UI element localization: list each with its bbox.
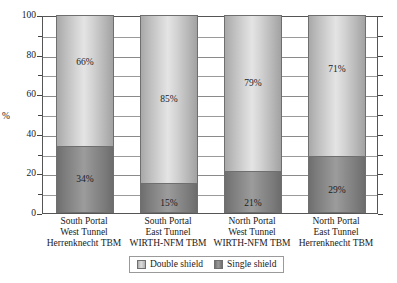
bar-group[interactable]: 85%15% [140, 15, 198, 213]
bar-segment-single-shield[interactable]: 21% [224, 171, 282, 213]
bar-value-label: 79% [244, 79, 261, 89]
bar-value-label: 71% [328, 65, 345, 75]
y-tick-mark-right [378, 75, 383, 76]
bar-segment-double-shield[interactable]: 66% [56, 15, 114, 146]
legend-item-double-shield[interactable]: Double shield [137, 260, 203, 270]
y-tick-mark-right [378, 16, 383, 17]
y-tick-label: 60 [8, 90, 36, 100]
y-tick-mark-right [378, 194, 383, 195]
bar-segment-single-shield[interactable]: 34% [56, 146, 114, 213]
bar-group[interactable]: 66%34% [56, 15, 114, 213]
legend-label-double-shield: Double shield [150, 260, 203, 270]
bar-value-label: 34% [76, 175, 93, 185]
bar-segment-double-shield[interactable]: 71% [308, 15, 366, 156]
chart-legend: Double shield Single shield [129, 256, 284, 273]
bar-value-label: 66% [76, 58, 93, 68]
x-axis-label-line: East Tunnel [276, 227, 396, 238]
bar-group[interactable]: 71%29% [308, 15, 366, 213]
bar-segment-double-shield[interactable]: 79% [224, 15, 282, 171]
bar-segment-double-shield[interactable]: 85% [140, 15, 198, 183]
bar-group[interactable]: 79%21% [224, 15, 282, 213]
bar-value-label: 15% [160, 199, 177, 209]
y-tick-mark-right [378, 56, 383, 57]
y-tick-label: 20 [8, 169, 36, 179]
stacked-bar-chart: % 020406080100 66%34%85%15%79%21%71%29% … [0, 0, 397, 283]
bar-value-label: 29% [328, 186, 345, 196]
x-axis-label-line: North Portal [276, 216, 396, 227]
x-axis-label-line: Herrenknecht TBM [276, 238, 396, 249]
y-tick-mark-right [378, 155, 383, 156]
bar-segment-single-shield[interactable]: 29% [308, 156, 366, 213]
legend-swatch-double-shield [137, 260, 146, 269]
legend-swatch-single-shield [214, 260, 223, 269]
y-tick-mark-right [378, 135, 383, 136]
legend-label-single-shield: Single shield [227, 260, 276, 270]
y-tick-mark-right [378, 95, 383, 96]
legend-item-single-shield[interactable]: Single shield [214, 260, 276, 270]
y-tick-label: 100 [8, 11, 36, 21]
plot-area: 66%34%85%15%79%21%71%29% [42, 16, 378, 214]
y-tick-label: 40 [8, 130, 36, 140]
bar-value-label: 85% [160, 95, 177, 105]
y-tick-mark-right [378, 214, 383, 215]
y-tick-mark-right [378, 115, 383, 116]
y-tick-mark [37, 214, 42, 215]
y-axis-title: % [2, 112, 10, 122]
y-tick-label: 80 [8, 51, 36, 61]
bar-value-label: 21% [244, 199, 261, 209]
x-axis-category-label: North PortalEast TunnelHerrenknecht TBM [276, 216, 396, 250]
y-tick-mark-right [378, 174, 383, 175]
y-tick-mark-right [378, 36, 383, 37]
bar-segment-single-shield[interactable]: 15% [140, 183, 198, 213]
